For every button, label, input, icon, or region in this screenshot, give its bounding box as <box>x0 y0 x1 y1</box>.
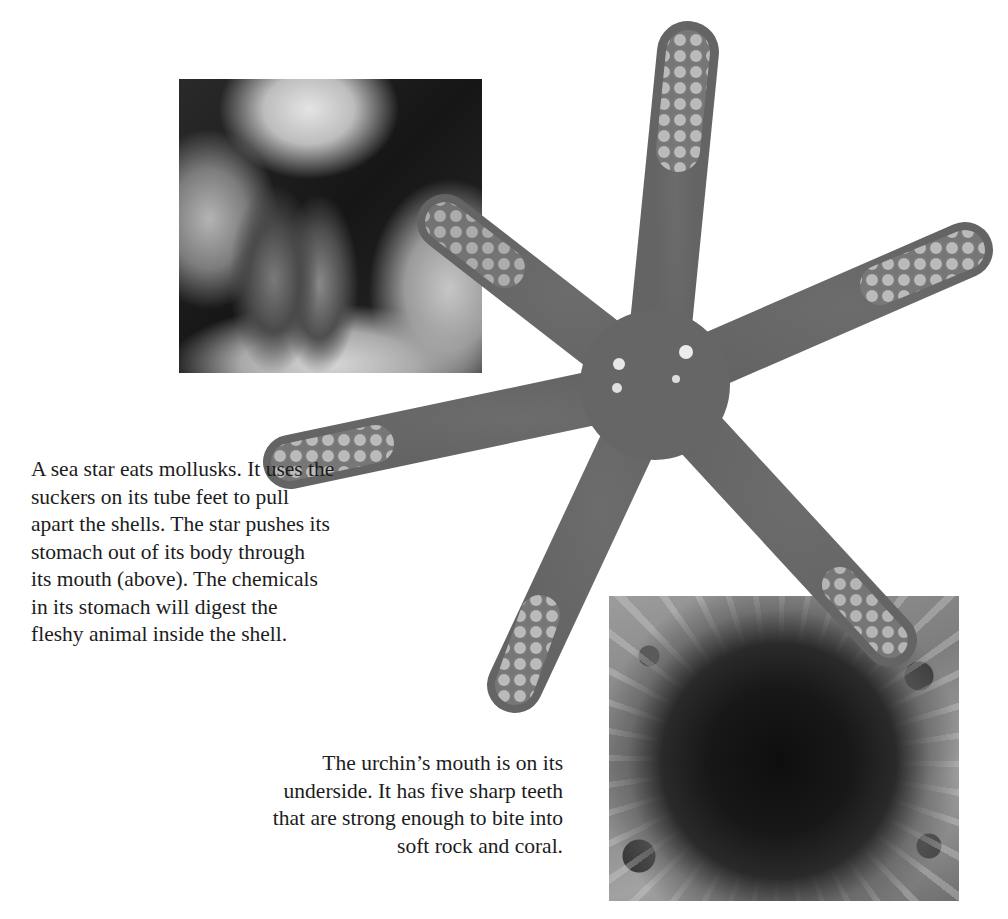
caption-line: in its stomach will digest the <box>31 594 334 622</box>
urchin-caption: The urchin’s mouth is on its underside. … <box>180 750 563 860</box>
caption-line: fleshy animal inside the shell. <box>31 621 334 649</box>
caption-line: The urchin’s mouth is on its <box>180 750 563 778</box>
caption-line: that are strong enough to bite into <box>180 805 563 833</box>
caption-line: A sea star eats mollusks. It uses the <box>31 456 334 484</box>
caption-line: soft rock and coral. <box>180 833 563 861</box>
urchin-photo <box>609 596 959 901</box>
caption-line: underside. It has five sharp teeth <box>180 778 563 806</box>
caption-line: suckers on its tube feet to pull <box>31 484 334 512</box>
seastar-caption: A sea star eats mollusks. It uses the su… <box>31 456 334 649</box>
mollusk-photo <box>179 79 482 373</box>
caption-line: its mouth (above). The chemicals <box>31 566 334 594</box>
caption-line: apart the shells. The star pushes its <box>31 511 334 539</box>
caption-line: stomach out of its body through <box>31 539 334 567</box>
